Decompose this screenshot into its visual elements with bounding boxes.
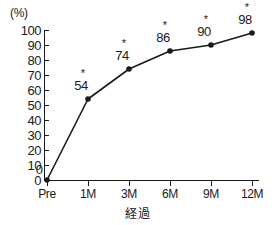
data-point-value-label: 54 [59, 79, 103, 92]
data-series-line [47, 33, 252, 180]
data-point-marker [85, 96, 91, 102]
data-point-marker [167, 48, 173, 54]
significance-asterisk: * [61, 69, 105, 77]
data-point-value-label: 90 [182, 25, 226, 38]
data-point-markers [44, 30, 255, 183]
data-point-marker [44, 177, 50, 183]
significance-asterisk: * [184, 15, 228, 23]
data-point-marker [126, 66, 132, 72]
data-point-value-label: 86 [141, 31, 185, 44]
data-point-value-label: 0 [17, 163, 61, 176]
data-point-marker [249, 30, 255, 36]
significance-asterisk: * [225, 3, 269, 11]
data-point-value-label: 98 [223, 13, 267, 26]
line-chart: (%) 0102030405060708090100 Pre1M3M6M9M12… [0, 0, 275, 225]
significance-asterisk: * [143, 21, 187, 29]
data-point-marker [208, 42, 214, 48]
significance-asterisk: * [102, 39, 146, 47]
plot-area [0, 0, 275, 225]
data-point-value-label: 74 [100, 49, 144, 62]
